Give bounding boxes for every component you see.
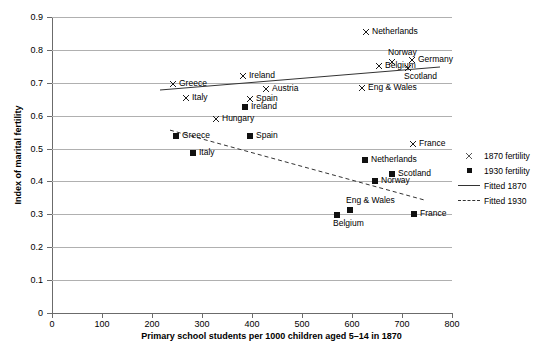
data-point-label: Ireland <box>249 71 275 80</box>
y-axis-tick-label: 0.5 <box>0 145 43 154</box>
x-axis-tick-label: 0 <box>32 320 72 329</box>
data-point-label: Greece <box>179 79 207 88</box>
data-point-label: Belgium <box>333 219 364 228</box>
legend-label: Fitted 1930 <box>482 196 527 206</box>
y-axis-tick-label: 0 <box>0 309 43 318</box>
x-marker-icon <box>375 62 383 70</box>
data-point-label: Eng & Wales <box>346 196 395 205</box>
square-marker-icon <box>456 168 482 173</box>
legend-label: 1870 fertility <box>482 151 530 161</box>
x-axis-tick-label: 500 <box>282 320 322 329</box>
y-axis-tick-label: 0.6 <box>0 112 43 121</box>
y-axis-tick-label: 0.4 <box>0 177 43 186</box>
x-axis-tick-label: 600 <box>332 320 372 329</box>
gridline <box>52 17 452 18</box>
data-point-label: Greece <box>182 131 210 140</box>
square-marker-icon <box>347 207 353 213</box>
legend-item[interactable]: 1930 fertility <box>456 163 542 178</box>
x-axis-tick <box>202 313 203 318</box>
x-axis-tick-label: 400 <box>232 320 272 329</box>
y-axis-tick-label: 0.2 <box>0 243 43 252</box>
data-point-label: Eng & Wales <box>368 83 417 92</box>
x-axis-tick <box>452 313 453 318</box>
x-axis-tick-label: 700 <box>382 320 422 329</box>
y-axis-tick-label: 0.3 <box>0 210 43 219</box>
data-point-label: Italy <box>199 148 215 157</box>
data-point-label: Spain <box>256 131 278 140</box>
y-axis-tick <box>47 280 52 281</box>
y-axis-tick <box>47 83 52 84</box>
data-point-label: Netherlands <box>371 155 417 164</box>
square-marker-icon <box>372 178 378 184</box>
x-marker-icon <box>212 115 220 123</box>
data-point-label: Scotland <box>404 72 437 81</box>
x-axis-tick-label: 100 <box>82 320 122 329</box>
x-axis-tick <box>302 313 303 318</box>
x-marker-icon <box>358 84 366 92</box>
x-marker-icon <box>409 140 417 148</box>
data-point-label: Netherlands <box>372 27 418 36</box>
data-point-label: Norway <box>381 176 410 185</box>
square-marker-icon <box>247 133 253 139</box>
square-marker-icon <box>362 157 368 163</box>
square-marker-icon <box>190 150 196 156</box>
gridline <box>52 247 452 248</box>
gridline <box>52 149 452 150</box>
x-axis-title: Primary school students per 1000 childre… <box>0 331 543 341</box>
y-axis-tick-label: 0.9 <box>0 13 43 22</box>
dashed-line-icon <box>456 200 482 201</box>
data-point-label: France <box>419 139 445 148</box>
y-axis-tick <box>47 149 52 150</box>
x-axis-tick-label: 800 <box>432 320 472 329</box>
data-point-label: Italy <box>192 93 208 102</box>
legend-item[interactable]: 1870 fertility <box>456 148 542 163</box>
y-axis-tick-label: 0.1 <box>0 276 43 285</box>
y-axis-tick <box>47 247 52 248</box>
y-axis-tick <box>47 116 52 117</box>
x-axis-tick <box>402 313 403 318</box>
y-axis-tick <box>47 181 52 182</box>
x-axis-tick <box>52 313 53 318</box>
x-marker-icon <box>362 28 370 36</box>
y-axis-tick <box>47 17 52 18</box>
x-marker-icon <box>182 94 190 102</box>
data-point-label: Hungary <box>222 114 254 123</box>
y-axis-tick <box>47 214 52 215</box>
y-axis-tick <box>47 50 52 51</box>
x-marker-icon <box>239 72 247 80</box>
x-axis-tick-label: 300 <box>182 320 222 329</box>
legend-label: Fitted 1870 <box>482 181 527 191</box>
gridline <box>52 280 452 281</box>
data-point-label: Germany <box>418 55 453 64</box>
solid-line-icon <box>456 185 482 186</box>
gridline <box>52 214 452 215</box>
square-marker-icon <box>173 133 179 139</box>
x-axis-tick-label: 200 <box>132 320 172 329</box>
y-axis-tick-label: 0.7 <box>0 79 43 88</box>
data-point-label: Austria <box>272 84 298 93</box>
x-axis-tick <box>352 313 353 318</box>
x-marker-icon <box>262 85 270 93</box>
square-marker-icon <box>242 104 248 110</box>
square-marker-icon <box>411 211 417 217</box>
data-point-label: France <box>420 209 446 218</box>
data-point-label: Ireland <box>251 102 277 111</box>
chart-legend: 1870 fertility1930 fertilityFitted 1870F… <box>456 148 542 208</box>
scatter-chart: Primary school students per 1000 childre… <box>0 0 543 343</box>
x-axis-tick <box>252 313 253 318</box>
x-marker-icon <box>169 80 177 88</box>
x-marker-icon <box>456 152 482 160</box>
x-marker-icon <box>388 58 396 66</box>
legend-item[interactable]: Fitted 1930 <box>456 193 542 208</box>
x-axis-tick <box>102 313 103 318</box>
legend-label: 1930 fertility <box>482 166 530 176</box>
x-axis-tick <box>152 313 153 318</box>
y-axis-tick-label: 0.8 <box>0 46 43 55</box>
legend-item[interactable]: Fitted 1870 <box>456 178 542 193</box>
